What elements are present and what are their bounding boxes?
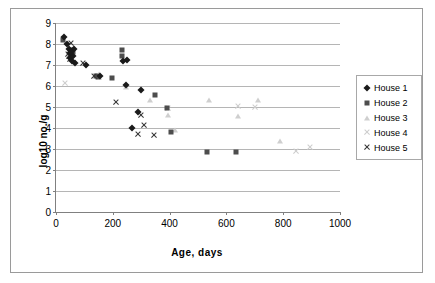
data-point bbox=[96, 72, 103, 79]
data-point bbox=[204, 150, 209, 155]
data-point bbox=[135, 109, 142, 116]
data-point bbox=[153, 93, 158, 98]
data-point bbox=[206, 97, 212, 102]
data-point bbox=[123, 56, 130, 63]
data-point bbox=[147, 97, 153, 102]
y-tick-label: 4 bbox=[45, 123, 51, 134]
gridline bbox=[56, 191, 340, 192]
data-point bbox=[95, 74, 102, 81]
gridline bbox=[56, 128, 340, 129]
y-tick-label: 2 bbox=[45, 165, 51, 176]
gridline bbox=[56, 23, 340, 24]
data-point bbox=[255, 97, 261, 102]
x-light-marker-icon bbox=[361, 127, 372, 138]
data-point bbox=[277, 138, 283, 143]
data-point bbox=[93, 73, 98, 78]
y-tick-mark bbox=[53, 44, 56, 45]
gridline bbox=[56, 170, 340, 171]
data-point bbox=[60, 33, 67, 40]
data-point bbox=[138, 112, 145, 119]
x-tick-mark bbox=[170, 212, 171, 215]
y-tick-label: 8 bbox=[45, 39, 51, 50]
legend-item[interactable]: House 1 bbox=[361, 80, 418, 95]
y-tick-mark bbox=[53, 149, 56, 150]
legend-item[interactable]: House 3 bbox=[361, 110, 418, 125]
data-point bbox=[165, 113, 171, 118]
data-point bbox=[66, 50, 73, 57]
gridline bbox=[56, 107, 340, 108]
data-point bbox=[119, 48, 124, 53]
data-point bbox=[150, 132, 157, 139]
y-tick-label: 0 bbox=[45, 207, 51, 218]
legend-item-label: House 3 bbox=[374, 113, 408, 123]
y-tick-label: 3 bbox=[45, 144, 51, 155]
y-tick-mark bbox=[53, 86, 56, 87]
gridline bbox=[56, 86, 340, 87]
gridline bbox=[56, 44, 340, 45]
x-tick-label: 200 bbox=[104, 218, 121, 229]
y-tick-mark bbox=[53, 170, 56, 171]
data-point bbox=[64, 51, 71, 58]
y-tick-label: 6 bbox=[45, 81, 51, 92]
x-tick-label: 600 bbox=[218, 218, 235, 229]
x-tick-mark bbox=[113, 212, 114, 215]
y-tick-label: 7 bbox=[45, 60, 51, 71]
data-point bbox=[96, 74, 101, 79]
data-point bbox=[119, 57, 126, 64]
data-point bbox=[70, 46, 77, 53]
chart-frame: log10 no./g Age, days 012345678902004006… bbox=[10, 8, 423, 273]
data-point bbox=[67, 55, 74, 62]
data-point bbox=[235, 114, 241, 119]
triangle-marker-icon bbox=[361, 112, 372, 123]
data-point bbox=[67, 54, 74, 61]
data-point bbox=[70, 48, 75, 53]
x-tick-label: 400 bbox=[161, 218, 178, 229]
data-point bbox=[112, 98, 119, 105]
square-marker-icon bbox=[361, 97, 372, 108]
data-point bbox=[68, 39, 75, 46]
x-tick-label: 0 bbox=[53, 218, 59, 229]
legend-item[interactable]: House 4 bbox=[361, 125, 418, 140]
data-point bbox=[66, 49, 73, 56]
y-tick-mark bbox=[53, 65, 56, 66]
data-point bbox=[67, 49, 74, 56]
x-axis-title: Age, days bbox=[55, 247, 339, 258]
data-point bbox=[234, 150, 239, 155]
y-tick-mark bbox=[53, 191, 56, 192]
data-point bbox=[110, 75, 115, 80]
gridline bbox=[56, 149, 340, 150]
data-point bbox=[138, 87, 145, 94]
legend-item-label: House 2 bbox=[374, 98, 408, 108]
data-point bbox=[71, 50, 76, 55]
legend-item-label: House 5 bbox=[374, 143, 408, 153]
y-tick-mark bbox=[53, 23, 56, 24]
y-tick-mark bbox=[53, 128, 56, 129]
data-point bbox=[65, 46, 72, 53]
data-point bbox=[68, 57, 75, 64]
data-point bbox=[165, 105, 172, 112]
legend-item[interactable]: House 2 bbox=[361, 95, 418, 110]
x-dark-marker-icon bbox=[361, 142, 372, 153]
data-point bbox=[60, 37, 65, 42]
data-point bbox=[119, 53, 124, 58]
x-tick-mark bbox=[56, 212, 57, 215]
x-tick-label: 1000 bbox=[329, 218, 351, 229]
y-tick-label: 9 bbox=[45, 18, 51, 29]
data-point bbox=[69, 52, 76, 59]
y-tick-mark bbox=[53, 107, 56, 108]
data-point bbox=[91, 73, 98, 80]
legend-item-label: House 1 bbox=[374, 83, 408, 93]
data-point bbox=[122, 81, 129, 88]
data-point bbox=[65, 53, 72, 60]
x-tick-mark bbox=[340, 212, 341, 215]
gridline bbox=[56, 65, 340, 66]
data-point bbox=[135, 131, 142, 138]
x-tick-label: 800 bbox=[275, 218, 292, 229]
data-point bbox=[234, 102, 241, 109]
chart-legend: House 1House 2House 3House 4House 5 bbox=[356, 75, 422, 160]
legend-item[interactable]: House 5 bbox=[361, 140, 418, 155]
y-tick-label: 1 bbox=[45, 186, 51, 197]
data-point bbox=[169, 130, 174, 135]
plot-area: 012345678902004006008001000 bbox=[55, 23, 340, 213]
y-tick-label: 5 bbox=[45, 102, 51, 113]
